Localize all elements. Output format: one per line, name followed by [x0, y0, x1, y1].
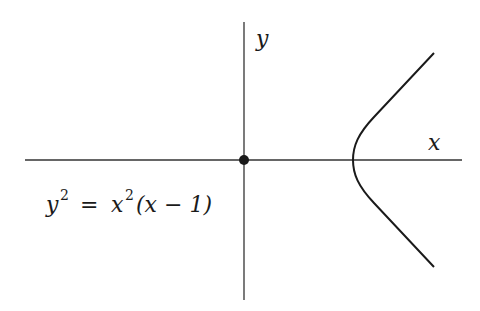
equation-label: y 2 = x 2 (x − 1)	[45, 187, 212, 217]
x-axis-label: x	[428, 130, 441, 155]
curve-diagram: y x y 2 = x 2 (x − 1)	[0, 0, 480, 311]
equation-rhs-paren: (x − 1)	[136, 192, 212, 217]
equation-rhs-exp: 2	[125, 187, 134, 203]
y-axis-label: y	[255, 26, 269, 51]
origin-point	[239, 155, 249, 165]
equation-equals: =	[80, 192, 98, 217]
equation-rhs-var: x	[111, 192, 124, 217]
equation-lhs-exp: 2	[60, 187, 69, 203]
equation-lhs-var: y	[45, 192, 59, 217]
